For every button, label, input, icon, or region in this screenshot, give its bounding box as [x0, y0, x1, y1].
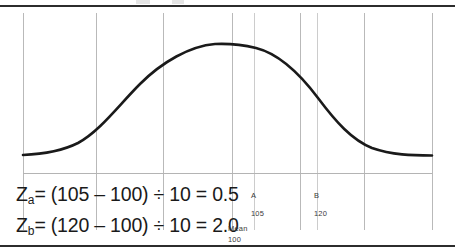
z-score-equations: Za= (105 – 100) ÷ 10 = 0.5 Zb= (120 – 10… [16, 182, 239, 245]
equation-z-b: Zb= (120 – 100) ÷ 10 = 2.0 [16, 213, 239, 244]
annotation-point-a: A 105 [251, 190, 264, 219]
annotation-mean: Mean 100 [228, 223, 248, 245]
annotation-point-a-label: A [251, 190, 264, 201]
z-score-normal-curve-figure: Za= (105 – 100) ÷ 10 = 0.5 Zb= (120 – 10… [0, 0, 455, 252]
annotation-point-b-value: 120 [314, 208, 327, 219]
equation-z-a-expression: = (105 – 100) ÷ 10 = 0.5 [34, 183, 238, 205]
equation-z-a-variable: Z [16, 183, 28, 205]
annotation-point-b-label: B [314, 190, 327, 201]
annotation-point-a-value: 105 [251, 208, 264, 219]
annotation-point-b: B 120 [314, 190, 327, 219]
equation-z-a: Za= (105 – 100) ÷ 10 = 0.5 [16, 182, 239, 213]
equation-z-b-expression: = (120 – 100) ÷ 10 = 2.0 [34, 214, 238, 236]
annotation-mean-value: 100 [228, 234, 248, 245]
equation-z-b-variable: Z [16, 214, 28, 236]
annotation-mean-label: Mean [228, 223, 248, 234]
